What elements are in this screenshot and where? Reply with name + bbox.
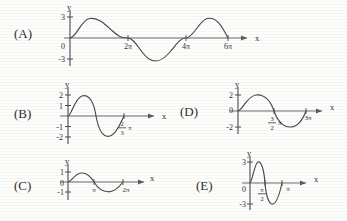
option-label-d: (D) <box>180 104 198 120</box>
x-axis-arrow-c <box>138 180 144 185</box>
y-tick-label-c-1: 1 <box>60 168 64 177</box>
graph-c: y x 1 -1 0 π 2π <box>52 160 172 212</box>
fraction-suffix-b: π <box>128 124 132 131</box>
x-tick-label-a-6pi: 6π <box>224 42 232 51</box>
option-label-b: (B) <box>14 106 31 122</box>
option-panel-c: (C) y x 1 -1 0 π 2π <box>0 150 175 221</box>
fraction-denominator-b: 3 <box>120 129 123 136</box>
origin-label-d: 0 <box>229 106 233 115</box>
y-tick-label-d-2: 2 <box>229 91 233 100</box>
option-panel-e: (E) y x 3 -3 0 π 2 π <box>172 150 347 221</box>
x-tick-label-a-4pi: 4π <box>182 42 190 51</box>
y-tick-label-a-3: 3 <box>61 13 65 22</box>
x-tick-label-b-fraction: 2 3 π <box>118 120 132 136</box>
x-axis-label-e: x <box>314 174 319 184</box>
y-tick-label-b-2: 2 <box>59 91 63 100</box>
fraction-denominator-d: 2 <box>270 124 273 131</box>
y-axis-label-a: y <box>67 2 72 12</box>
fraction-suffix-d: π <box>278 119 282 126</box>
origin-label-c: 0 <box>60 179 64 188</box>
y-tick-label-b-neg2: -2 <box>56 133 63 142</box>
option-label-e: (E) <box>196 178 213 194</box>
fraction-numerator-d: 3 <box>270 115 273 122</box>
y-tick-label-d-neg2: -2 <box>226 123 233 132</box>
x-axis-arrow-d <box>316 109 322 114</box>
x-axis-label-c: x <box>150 173 155 183</box>
x-axis-arrow-e <box>300 181 306 186</box>
x-tick-label-d-3pi: 3π <box>304 114 312 122</box>
fraction-denominator-e: 2 <box>260 195 263 202</box>
x-tick-label-c-2pi: 2π <box>122 186 130 194</box>
fraction-numerator-e: π <box>260 186 264 193</box>
origin-label-a: 0 <box>61 42 65 51</box>
x-axis-label-b: x <box>162 111 167 121</box>
y-axis-label-c: y <box>65 156 70 166</box>
x-tick-label-d-fraction: 3 2 π <box>268 115 282 131</box>
fraction-numerator-b: 2 <box>120 120 123 127</box>
x-axis-arrow-b <box>148 114 154 119</box>
y-axis-label-b: y <box>65 79 70 89</box>
x-axis-arrow-a <box>241 36 247 41</box>
y-tick-label-b-1: 1 <box>59 102 63 111</box>
x-tick-label-a-2pi: 2π <box>124 42 132 51</box>
graph-b: y x 2 1 -1 -2 2 3 π <box>50 82 175 148</box>
option-panel-d: (D) y x 2 0 -2 3 2 π 3π <box>172 78 347 150</box>
y-tick-label-a-neg3: -3 <box>58 55 65 64</box>
x-tick-label-e-fraction: π 2 <box>258 186 266 202</box>
y-tick-label-e-3: 3 <box>242 158 246 167</box>
y-tick-label-c-neg1: -1 <box>57 188 64 197</box>
x-tick-label-c-pi: π <box>92 186 96 194</box>
y-tick-label-b-neg1: -1 <box>56 123 63 132</box>
graph-e: y x 3 -3 0 π 2 π <box>232 152 342 218</box>
option-panel-a: (A) y x 3 -3 0 2π 4π 6π <box>0 0 347 78</box>
x-axis-label-a: x <box>255 33 260 43</box>
y-tick-label-e-neg3: -3 <box>239 200 246 209</box>
x-axis-label-d: x <box>330 102 335 112</box>
option-label-a: (A) <box>14 26 32 42</box>
origin-label-e: 0 <box>242 185 246 194</box>
graph-a: y x 3 -3 0 2π 4π 6π <box>62 8 277 70</box>
graph-d: y x 2 0 -2 3 2 π 3π <box>218 82 346 146</box>
option-label-c: (C) <box>14 178 31 194</box>
option-panel-b: (B) y x 2 1 -1 -2 2 3 π <box>0 78 175 150</box>
sine-curve-a <box>70 18 228 61</box>
y-axis-label-d: y <box>235 79 240 89</box>
x-tick-label-e-pi: π <box>286 185 290 193</box>
